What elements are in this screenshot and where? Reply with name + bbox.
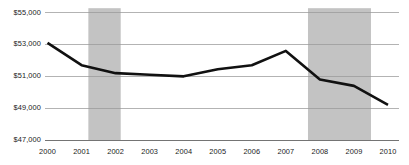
line-chart-plot: [0, 0, 409, 165]
chart-container: $47,000$49,000$51,000$53,000$55,000 2000…: [0, 0, 409, 165]
recession-band-2008: [308, 8, 371, 140]
